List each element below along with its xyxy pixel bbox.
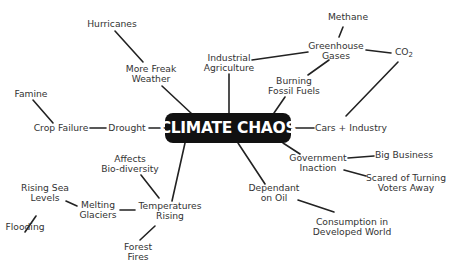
node-label: Flooding (5, 222, 44, 232)
node-label: Levels (21, 193, 69, 203)
node-cars-industry[interactable]: Cars + Industry (315, 123, 387, 133)
node-label: Fossil Fuels (268, 86, 320, 96)
node-label: Glaciers (79, 210, 116, 220)
node-label: Agriculture (204, 63, 255, 73)
node-label: on Oil (249, 193, 300, 203)
link-co2-cars (346, 62, 398, 116)
node-label: Gases (308, 51, 364, 61)
node-greenhouse-gases[interactable]: Greenhouse Gases (308, 41, 364, 61)
node-hurricanes[interactable]: Hurricanes (87, 19, 137, 29)
link-temperatures-forestfires (140, 226, 155, 240)
node-rising-sea-levels[interactable]: Rising Sea Levels (21, 183, 69, 203)
node-crop-failure[interactable]: Crop Failure (34, 123, 89, 133)
node-label: CO2 (395, 47, 413, 60)
node-famine[interactable]: Famine (14, 89, 47, 99)
node-label: Big Business (375, 150, 433, 160)
mind-map: CLIMATE CHAOS Hurricanes More Freak Weat… (0, 0, 449, 271)
node-label: Drought (108, 123, 145, 133)
node-melting-glaciers[interactable]: Melting Glaciers (79, 200, 116, 220)
node-burning-fossil-fuels[interactable]: Burning Fossil Fuels (268, 76, 320, 96)
node-label: Hurricanes (87, 19, 137, 29)
node-methane[interactable]: Methane (328, 12, 368, 22)
link-burning-center (274, 97, 285, 113)
node-label: Fires (124, 252, 152, 262)
node-industrial-agriculture[interactable]: Industrial Agriculture (204, 53, 255, 73)
node-drought[interactable]: Drought (108, 123, 145, 133)
node-label: Cars + Industry (315, 123, 387, 133)
node-label: Weather (126, 74, 177, 84)
node-label: Crop Failure (34, 123, 89, 133)
link-dependant-consumption (298, 200, 334, 212)
central-topic[interactable]: CLIMATE CHAOS (165, 113, 291, 143)
node-co2[interactable]: CO2 (395, 47, 413, 60)
node-flooding[interactable]: Flooding (5, 222, 44, 232)
node-temperatures-rising[interactable]: Temperatures Rising (139, 201, 202, 221)
co2-base: CO (395, 46, 409, 57)
link-methane-greenhouse (339, 27, 343, 37)
link-biodiversity-temperatures (141, 175, 159, 198)
node-more-freak-weather[interactable]: More Freak Weather (126, 64, 177, 84)
node-affects-biodiversity[interactable]: Affects Bio-diversity (101, 154, 159, 174)
link-center-temperatures (172, 143, 185, 201)
co2-subscript: 2 (409, 51, 413, 59)
link-freakweather-center (162, 86, 192, 114)
node-label: Voters Away (366, 183, 446, 193)
link-famine-cropfailure (33, 100, 53, 123)
link-government-voters (344, 170, 366, 176)
node-consumption-developed-world[interactable]: Consumption in Developed World (313, 217, 392, 237)
link-greenhouse-burning (308, 60, 329, 75)
node-scared-of-turning-voters-away[interactable]: Scared of Turning Voters Away (366, 173, 446, 193)
link-government-bigbusiness (348, 156, 374, 158)
node-big-business[interactable]: Big Business (375, 150, 433, 160)
link-hurricanes-freakweather (115, 31, 143, 62)
node-forest-fires[interactable]: Forest Fires (124, 242, 152, 262)
node-label: Bio-diversity (101, 164, 159, 174)
node-dependant-on-oil[interactable]: Dependant on Oil (249, 183, 300, 203)
link-center-dependant (238, 143, 265, 184)
node-label: Developed World (313, 227, 392, 237)
node-government-inaction[interactable]: Government Inaction (289, 153, 346, 173)
node-label: Rising (139, 211, 202, 221)
link-greenhouse-co2 (366, 50, 391, 53)
node-label: Famine (14, 89, 47, 99)
link-indag-greenhouse (252, 52, 308, 60)
node-label: Methane (328, 12, 368, 22)
node-label: Inaction (289, 163, 346, 173)
